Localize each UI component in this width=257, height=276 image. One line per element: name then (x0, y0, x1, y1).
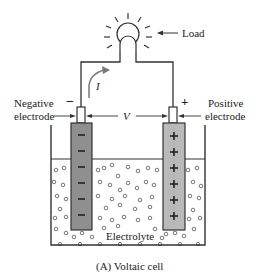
positive-terminal (169, 107, 177, 123)
circuit-wires (81, 52, 173, 107)
negative-terminal-sign: − (66, 94, 74, 109)
negative-electrode (71, 123, 92, 230)
voltage-label: V (123, 110, 131, 122)
positive-terminal-sign: + (181, 94, 188, 109)
electrolyte-label: Electrolyte (106, 230, 154, 242)
light-bulb-icon (104, 13, 152, 52)
positive-electrode (163, 123, 185, 230)
negative-electrode-label-line2: electrode (14, 110, 54, 122)
positive-electrode-label-line1: Positive (208, 97, 244, 109)
load-pointer (157, 31, 178, 36)
current-label: I (95, 80, 101, 92)
negative-terminal (77, 107, 85, 123)
negative-electrode-label-line1: Negative (14, 97, 54, 109)
caption: (A) Voltaic cell (96, 260, 163, 273)
positive-electrode-label-line2: electrode (205, 110, 245, 122)
load-label: Load (182, 27, 205, 39)
voltaic-cell-diagram: Load I − + Negative electrode Positive e… (0, 0, 257, 276)
